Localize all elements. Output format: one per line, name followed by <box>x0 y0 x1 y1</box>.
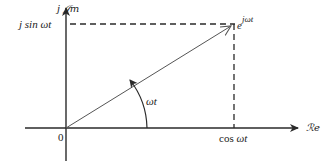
sin-projection-label: j sin ωt <box>19 19 51 30</box>
sin-prefix: j sin <box>19 18 38 30</box>
angle-label: ωt <box>146 96 157 107</box>
origin-label: 0 <box>58 132 64 143</box>
cos-prefix: cos <box>219 132 234 144</box>
phasor-label: ejωt <box>237 17 253 31</box>
cos-arg: ωt <box>236 132 247 144</box>
phasor-vector <box>66 26 231 128</box>
phasor-exponent: jωt <box>242 14 253 24</box>
cos-projection-label: cos ωt <box>219 133 247 144</box>
imag-symbol: 𝒥m <box>63 3 79 14</box>
real-axis-label: ℛe <box>306 123 320 133</box>
imaginary-axis-label: j 𝒥m <box>57 3 79 14</box>
imag-prefix: j <box>57 2 60 14</box>
sin-arg: ωt <box>40 18 51 30</box>
